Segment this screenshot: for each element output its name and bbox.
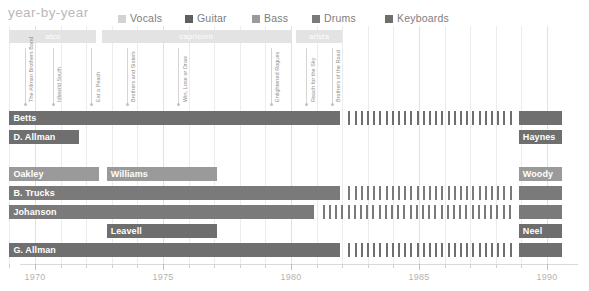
legend-swatch-icon	[118, 15, 126, 23]
bar-label-d-allman: D. Allman	[13, 130, 55, 144]
bar-label-oakley: Oakley	[13, 167, 43, 181]
bar-segment-betts-solid[interactable]	[519, 111, 563, 125]
bar-segment-johanson-solid[interactable]	[519, 205, 563, 219]
bar-segment-b-trucks-solid[interactable]	[519, 186, 563, 200]
bar-segment-g-allman-solid[interactable]: G. Allman	[9, 243, 339, 257]
hatch-tick	[335, 205, 337, 219]
hatch-tick	[435, 111, 437, 125]
hatch-tick	[485, 243, 487, 257]
bar-segment-woody-solid[interactable]: Woody	[519, 167, 563, 181]
hatch-tick	[453, 205, 455, 219]
hatch-tick	[367, 111, 369, 125]
bar-segment-williams-solid[interactable]: Williams	[107, 167, 217, 181]
hatch-tick	[348, 186, 350, 200]
hatch-tick	[323, 205, 325, 219]
axis-line	[20, 264, 578, 265]
hatch-tick	[429, 186, 431, 200]
hatch-tick	[479, 243, 481, 257]
hatch-tick	[485, 186, 487, 200]
hatch-tick	[392, 111, 394, 125]
legend-item-keyboards[interactable]: Keyboards	[385, 8, 449, 20]
axis-tick-1981	[317, 264, 318, 268]
hatch-tick	[379, 111, 381, 125]
hatch-tick	[385, 205, 387, 219]
album-tick-line	[306, 48, 307, 104]
axis-tick-1978	[240, 264, 241, 268]
bar-label-woody: Woody	[523, 167, 553, 181]
bar-segment-betts-solid[interactable]: Betts	[9, 111, 339, 125]
legend-item-vocals[interactable]: Vocals	[118, 8, 162, 20]
axis-year-label-1985: 1985	[408, 272, 429, 282]
hatch-tick	[367, 243, 369, 257]
legend-item-bass[interactable]: Bass	[252, 8, 288, 20]
legend-label: Bass	[264, 12, 288, 24]
album-title-4: Win, Lose or Draw	[182, 56, 188, 102]
bar-segment-neel-solid[interactable]: Neel	[519, 224, 563, 238]
hatch-tick	[422, 205, 424, 219]
hatch-tick	[441, 111, 443, 125]
hatch-tick	[454, 243, 456, 257]
hatch-tick	[410, 111, 412, 125]
hatch-tick	[341, 205, 343, 219]
axis-tick-1971	[61, 264, 62, 268]
bar-segment-oakley-solid[interactable]: Oakley	[9, 167, 99, 181]
page-title: year-by-year	[8, 5, 89, 20]
axis-tick-1984	[393, 264, 394, 268]
record-label-atco[interactable]: atco	[9, 30, 96, 43]
bar-segment-b-trucks-solid[interactable]: B. Trucks	[9, 186, 339, 200]
hatch-tick	[367, 186, 369, 200]
hatch-tick	[361, 186, 363, 200]
legend-swatch-icon	[252, 15, 260, 23]
hatch-tick	[510, 243, 512, 257]
hatch-tick	[373, 243, 375, 257]
hatch-tick	[373, 186, 375, 200]
hatch-tick	[441, 243, 443, 257]
bar-segment-johanson-solid[interactable]: Johanson	[9, 205, 314, 219]
album-title-5: Enlightened Rogues	[274, 52, 280, 102]
album-marker-dot-icon	[331, 103, 334, 106]
hatch-tick	[404, 186, 406, 200]
axis-tick-1974	[137, 264, 138, 268]
bar-label-neel: Neel	[523, 224, 542, 238]
hatch-tick	[379, 205, 381, 219]
bar-segment-betts-hatch[interactable]	[347, 111, 513, 125]
axis-tick-1989	[521, 264, 522, 268]
bar-segment-leavell-solid[interactable]: Leavell	[107, 224, 217, 238]
hatch-tick	[361, 243, 363, 257]
hatch-tick	[386, 243, 388, 257]
bar-segment-g-allman-solid[interactable]	[519, 243, 563, 257]
record-label-arista[interactable]: arista	[296, 30, 342, 43]
axis-tick-1970	[35, 264, 36, 270]
legend-swatch-icon	[185, 15, 193, 23]
legend-item-guitar[interactable]: Guitar	[185, 8, 227, 20]
hatch-tick	[354, 205, 356, 219]
hatch-tick	[454, 111, 456, 125]
record-label-capricorn[interactable]: capricorn	[102, 30, 291, 43]
axis-tick-1986	[445, 264, 446, 268]
album-tick-line	[53, 48, 54, 104]
axis-tick-1983	[368, 264, 369, 268]
bar-segment-d-allman-solid[interactable]: D. Allman	[9, 130, 78, 144]
hatch-tick	[491, 111, 493, 125]
bar-segment-haynes-solid[interactable]: Haynes	[519, 130, 563, 144]
hatch-tick	[386, 111, 388, 125]
hatch-tick	[429, 111, 431, 125]
hatch-tick	[355, 186, 357, 200]
hatch-tick	[441, 205, 443, 219]
bar-segment-johanson-hatch[interactable]	[322, 205, 514, 219]
legend-label: Vocals	[130, 12, 162, 24]
album-title-7: Brothers of the Road	[335, 50, 341, 102]
album-tick-line	[127, 48, 128, 104]
hatch-tick	[423, 186, 425, 200]
hatch-tick	[416, 205, 418, 219]
bar-segment-g-allman-hatch[interactable]	[347, 243, 513, 257]
hatch-tick	[361, 111, 363, 125]
hatch-tick	[510, 186, 512, 200]
bar-segment-b-trucks-hatch[interactable]	[347, 186, 513, 200]
table-row: D. AllmanHaynes	[0, 130, 589, 144]
legend-label: Drums	[324, 12, 356, 24]
hatch-tick	[497, 243, 499, 257]
table-row: Betts	[0, 111, 589, 125]
table-row: LeavellNeel	[0, 224, 589, 238]
legend-item-drums[interactable]: Drums	[312, 8, 356, 20]
